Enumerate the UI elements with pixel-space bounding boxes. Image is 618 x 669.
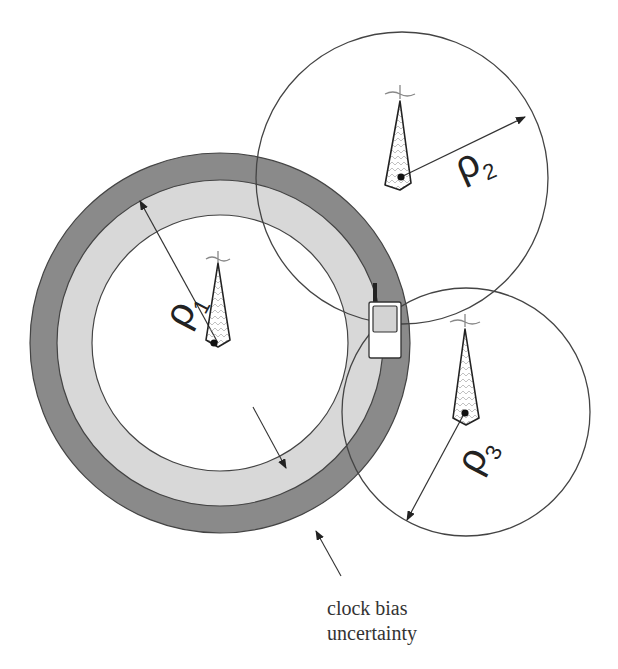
clock-bias-label-line2: uncertainty [327, 622, 417, 645]
rho-3-arrow [407, 412, 465, 520]
tower-2-icon [385, 85, 415, 190]
rho-2-label: ρ 2 [447, 134, 500, 195]
trilateration-diagram: ρ 1 ρ 2 ρ 3 clock bias uncertainty [0, 0, 618, 669]
clock-bias-label-line1: clock bias [327, 597, 408, 619]
rho-2-subscript: 2 [479, 158, 500, 186]
tower-3-icon [450, 314, 480, 425]
clock-bias-pointer-arrow [316, 531, 341, 576]
rho-3-label: ρ 3 [446, 429, 507, 483]
